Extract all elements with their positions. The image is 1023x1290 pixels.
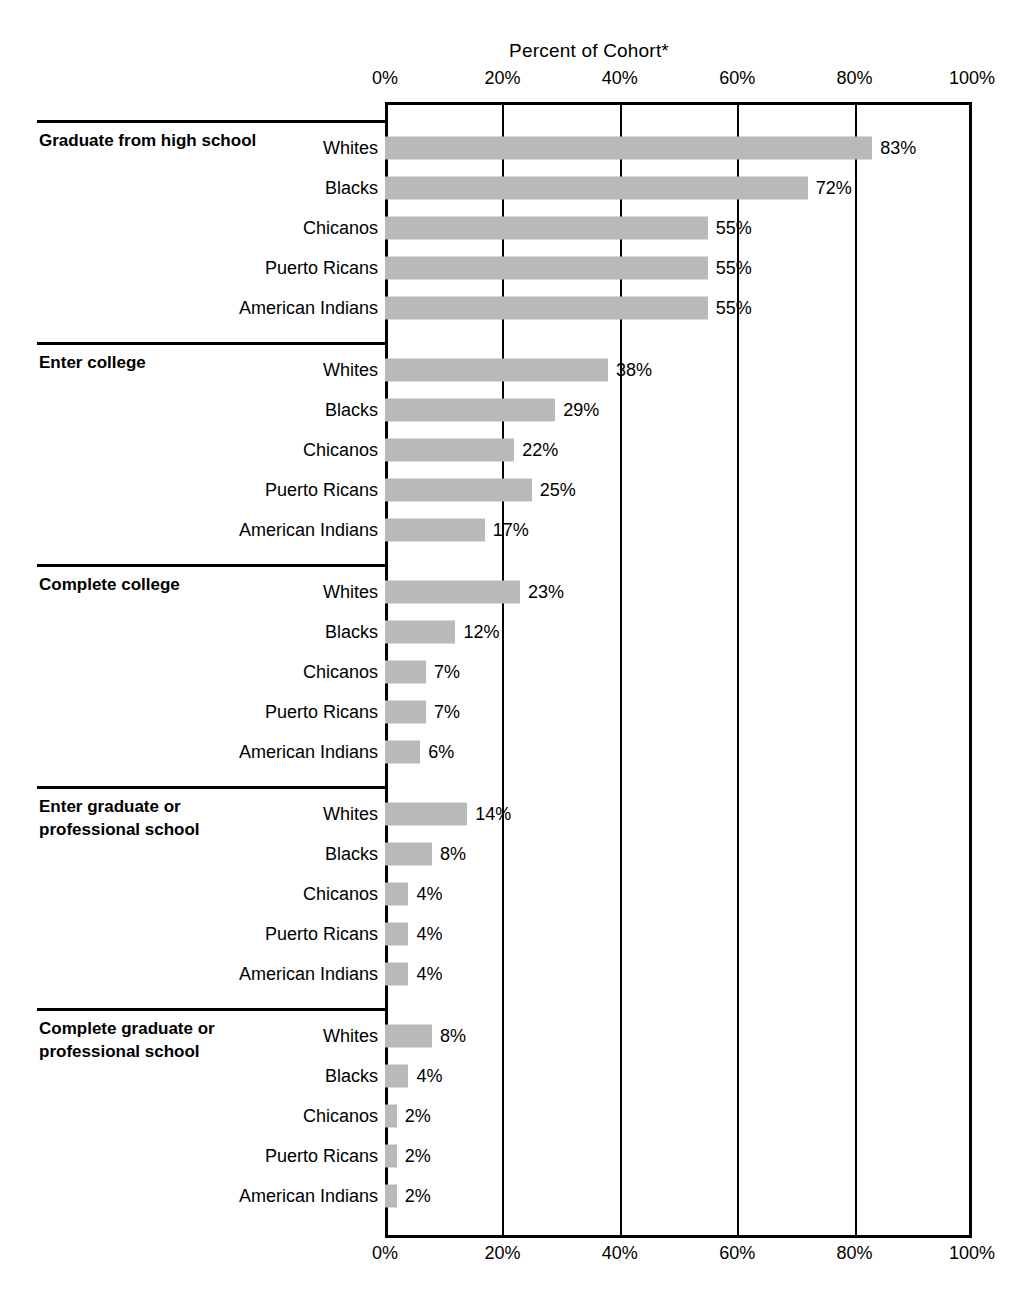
category-label: Chicanos	[303, 218, 378, 239]
bar-row: Chicanos4%	[0, 874, 1023, 914]
category-label: Chicanos	[303, 440, 378, 461]
x-axis-ticks-bottom: 0%20%40%60%80%100%	[0, 1243, 1023, 1265]
category-label: Puerto Ricans	[265, 924, 378, 945]
bar-row: Puerto Ricans2%	[0, 1136, 1023, 1176]
bar	[385, 257, 708, 280]
bar-chart: Percent of Cohort* 0%20%40%60%80%100% Gr…	[0, 0, 1023, 1290]
bar	[385, 1145, 397, 1168]
bar-value-label: 4%	[416, 884, 442, 905]
group-separator-rule	[37, 1008, 388, 1011]
category-label: Whites	[323, 138, 378, 159]
bar	[385, 581, 520, 604]
bar-value-label: 72%	[816, 178, 852, 199]
bar-value-label: 55%	[716, 298, 752, 319]
bar-value-label: 4%	[416, 964, 442, 985]
bar-row: Puerto Ricans7%	[0, 692, 1023, 732]
group-separator-rule	[37, 120, 388, 123]
category-label: American Indians	[239, 964, 378, 985]
chart-group: Enter graduate or professional schoolWhi…	[0, 786, 1023, 1008]
bar-value-label: 7%	[434, 702, 460, 723]
category-label: Puerto Ricans	[265, 480, 378, 501]
bar-value-label: 2%	[405, 1106, 431, 1127]
category-label: Puerto Ricans	[265, 1146, 378, 1167]
bar-value-label: 55%	[716, 258, 752, 279]
bar-row: Whites23%	[0, 572, 1023, 612]
category-label: Chicanos	[303, 662, 378, 683]
bar-row: American Indians2%	[0, 1176, 1023, 1216]
bar	[385, 217, 708, 240]
bar	[385, 741, 420, 764]
bar	[385, 963, 408, 986]
bar-value-label: 4%	[416, 1066, 442, 1087]
x-tick-label: 100%	[949, 68, 995, 89]
bar	[385, 701, 426, 724]
bar	[385, 923, 408, 946]
bar-row: Puerto Ricans55%	[0, 248, 1023, 288]
bar-row: American Indians6%	[0, 732, 1023, 772]
category-label: Whites	[323, 1026, 378, 1047]
category-label: Whites	[323, 804, 378, 825]
bar-row: American Indians17%	[0, 510, 1023, 550]
bar-row: Blacks4%	[0, 1056, 1023, 1096]
chart-group: Complete collegeWhites23%Blacks12%Chican…	[0, 564, 1023, 786]
category-label: Chicanos	[303, 884, 378, 905]
bar	[385, 519, 485, 542]
bar-row: Whites83%	[0, 128, 1023, 168]
chart-rows: Graduate from high schoolWhites83%Blacks…	[0, 102, 1023, 1238]
bar	[385, 803, 467, 826]
bar	[385, 1105, 397, 1128]
bar-value-label: 22%	[522, 440, 558, 461]
bar-row: Blacks12%	[0, 612, 1023, 652]
category-label: Whites	[323, 360, 378, 381]
bar-value-label: 23%	[528, 582, 564, 603]
bar-row: Whites14%	[0, 794, 1023, 834]
bar	[385, 439, 514, 462]
bar-value-label: 25%	[540, 480, 576, 501]
x-tick-label: 80%	[837, 68, 873, 89]
bar-row: Whites38%	[0, 350, 1023, 390]
bar	[385, 1065, 408, 1088]
bar	[385, 621, 455, 644]
bar-row: Chicanos7%	[0, 652, 1023, 692]
bar	[385, 137, 872, 160]
bar-value-label: 55%	[716, 218, 752, 239]
bar-row: Puerto Ricans25%	[0, 470, 1023, 510]
category-label: Blacks	[325, 1066, 378, 1087]
chart-group: Graduate from high schoolWhites83%Blacks…	[0, 120, 1023, 342]
x-tick-label: 100%	[949, 1243, 995, 1264]
bar	[385, 661, 426, 684]
category-label: Puerto Ricans	[265, 258, 378, 279]
bar-row: American Indians4%	[0, 954, 1023, 994]
bar	[385, 399, 555, 422]
category-label: Puerto Ricans	[265, 702, 378, 723]
bar-value-label: 8%	[440, 1026, 466, 1047]
category-label: American Indians	[239, 520, 378, 541]
bar-row: Chicanos55%	[0, 208, 1023, 248]
x-tick-label: 0%	[372, 1243, 398, 1264]
x-axis-ticks-top: 0%20%40%60%80%100%	[0, 68, 1023, 90]
category-label: American Indians	[239, 1186, 378, 1207]
bar-value-label: 8%	[440, 844, 466, 865]
group-separator-rule	[37, 786, 388, 789]
bar-value-label: 4%	[416, 924, 442, 945]
bar-value-label: 29%	[563, 400, 599, 421]
category-label: Blacks	[325, 844, 378, 865]
bar	[385, 177, 808, 200]
bar-row: American Indians55%	[0, 288, 1023, 328]
bar-row: Chicanos22%	[0, 430, 1023, 470]
bar	[385, 1025, 432, 1048]
x-tick-label: 40%	[602, 1243, 638, 1264]
bar-row: Blacks72%	[0, 168, 1023, 208]
chart-title: Percent of Cohort*	[0, 40, 1023, 62]
x-tick-label: 20%	[484, 1243, 520, 1264]
bar-value-label: 2%	[405, 1146, 431, 1167]
x-tick-label: 60%	[719, 68, 755, 89]
bar-value-label: 2%	[405, 1186, 431, 1207]
bar-value-label: 17%	[493, 520, 529, 541]
x-tick-label: 40%	[602, 68, 638, 89]
bar-value-label: 38%	[616, 360, 652, 381]
bar-value-label: 7%	[434, 662, 460, 683]
bar-value-label: 83%	[880, 138, 916, 159]
bar-row: Puerto Ricans4%	[0, 914, 1023, 954]
bar	[385, 359, 608, 382]
